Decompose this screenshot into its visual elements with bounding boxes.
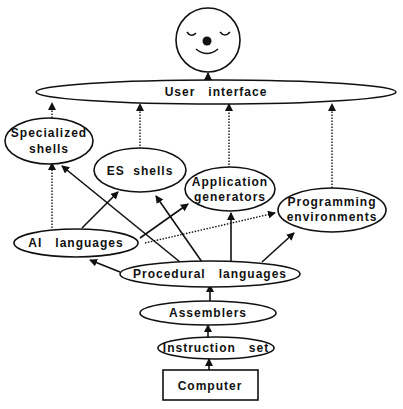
edge-ai-to-progenv xyxy=(145,213,275,243)
node-label: Assemblers xyxy=(169,306,247,320)
node-label: ES shells xyxy=(107,164,174,178)
node-application-generators: Application generators xyxy=(185,167,275,211)
node-label: User interface xyxy=(165,85,268,99)
node-label-line1: Programming xyxy=(287,195,376,209)
node-label: AI languages xyxy=(28,236,123,250)
edge-procedural-to-progenv xyxy=(262,233,294,262)
node-specialized-shells: Specialized shells xyxy=(5,118,93,164)
node-assemblers: Assemblers xyxy=(140,301,276,325)
node-label-line2: shells xyxy=(29,142,69,156)
node-label: Instruction set xyxy=(163,341,269,355)
node-es-shells: ES shells xyxy=(94,148,186,192)
node-user-interface: User interface xyxy=(36,80,396,104)
user-face-icon xyxy=(176,8,240,72)
node-programming-environments: Programming environments xyxy=(278,188,386,232)
edge-procedural-to-es xyxy=(156,196,202,262)
node-label: Computer xyxy=(178,379,243,393)
node-label-line2: environments xyxy=(287,210,378,224)
node-computer: Computer xyxy=(163,370,258,400)
edge-procedural-to-ai xyxy=(90,260,120,272)
node-label-line1: Specialized xyxy=(11,126,87,140)
node-label-line1: Application xyxy=(192,175,268,189)
node-label: Procedural languages xyxy=(133,267,287,281)
node-procedural-languages: Procedural languages xyxy=(120,261,300,287)
software-layers-diagram: User interface Specialized shells ES she… xyxy=(0,0,403,409)
node-label-line2: generators xyxy=(194,190,266,204)
node-ai-languages: AI languages xyxy=(14,229,138,257)
node-instruction-set: Instruction set xyxy=(158,337,274,359)
